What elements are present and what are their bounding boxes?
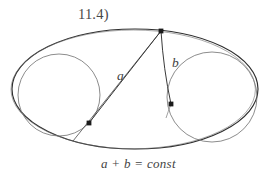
figure-caption: a + b = const [101,157,176,170]
point-apex [159,29,164,34]
point-tangent-right [169,102,174,107]
geometry-diagram [0,0,280,177]
figure-number-label: 11.4) [78,7,109,22]
figure-container: 11.4) a b a + b = const [0,0,280,177]
segment-b-line [161,31,171,104]
segment-a-main [89,31,161,123]
segment-a-label: a [117,69,124,83]
point-tangent-left [87,121,92,126]
inner-circle-right [167,52,257,142]
segment-b-label: b [172,56,179,70]
